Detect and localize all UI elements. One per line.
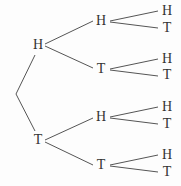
node-l3-thh: H [162,100,172,114]
node-l2-ht: T [97,62,106,76]
tree-branches [0,0,181,186]
node-l3-hht: T [163,21,172,35]
node-l3-htt: T [163,68,172,82]
node-l2-tt: T [97,158,106,172]
node-l2-hh: H [96,14,106,28]
node-l3-tth: H [162,148,172,162]
node-l1-heads: H [33,38,43,52]
node-l3-ttt: T [163,165,172,179]
tree-diagram: H T H T H T H T H T H T H T [0,0,181,186]
node-l3-hhh: H [162,4,172,18]
node-l1-tails: T [34,133,43,147]
node-l2-th: H [96,110,106,124]
node-l3-tht: T [163,117,172,131]
node-l3-hth: H [162,52,172,66]
